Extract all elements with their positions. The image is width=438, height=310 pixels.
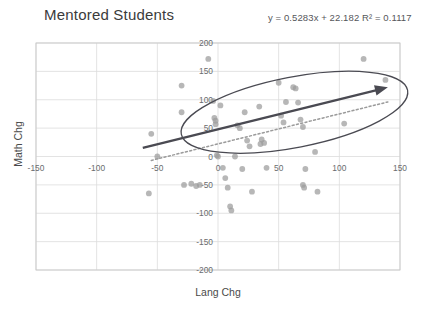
data-points: [146, 56, 388, 213]
svg-text:-150: -150: [28, 163, 45, 173]
svg-text:0: 0: [208, 152, 213, 162]
scatter-chart: Mentored Students y = 0.5283x + 22.182 R…: [0, 0, 438, 310]
trend-direction-arrow-icon: [143, 85, 388, 148]
svg-text:-50: -50: [201, 180, 213, 190]
svg-text:-50: -50: [151, 163, 163, 173]
svg-text:50: 50: [274, 163, 284, 173]
svg-text:0: 0: [216, 163, 221, 173]
x-axis-tick-labels: -150-100-50050100150: [28, 163, 408, 173]
svg-text:-200: -200: [196, 265, 213, 275]
svg-text:150: 150: [393, 163, 407, 173]
svg-text:-100: -100: [196, 208, 213, 218]
svg-text:100: 100: [332, 163, 346, 173]
plot-area: 200150100500-50-100-150-200 -150-100-500…: [0, 0, 438, 310]
svg-text:200: 200: [199, 38, 213, 48]
svg-text:-100: -100: [88, 163, 105, 173]
svg-text:-150: -150: [196, 237, 213, 247]
svg-text:150: 150: [199, 66, 213, 76]
